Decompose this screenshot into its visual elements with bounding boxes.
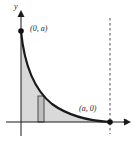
label-axis-x: x <box>123 117 127 125</box>
label-axis-y: y <box>14 3 18 11</box>
y-intercept-dot <box>18 28 24 34</box>
figure-canvas <box>0 0 132 142</box>
label-x-intercept: (a, 0) <box>79 105 96 113</box>
label-y-intercept: (0, a) <box>30 25 47 33</box>
x-intercept-dot <box>107 119 113 125</box>
shaded-area-under-curve <box>21 31 110 122</box>
representative-rectangle <box>38 96 44 122</box>
y-axis-arrow-icon <box>18 10 25 17</box>
figure-container: (0, a) (a, 0) y x <box>0 0 132 142</box>
